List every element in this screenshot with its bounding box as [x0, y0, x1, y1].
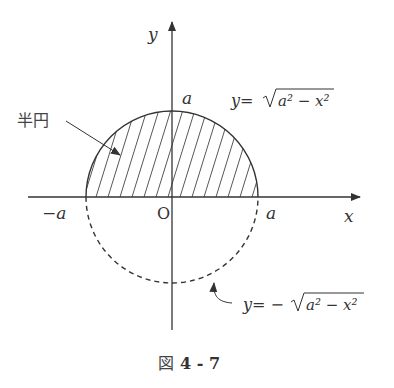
semicircle-pointer-arrow	[66, 121, 120, 155]
y-axis-label: y	[147, 24, 158, 44]
svg-text:y= −: y= −	[242, 295, 284, 314]
semicircle-label: 半円	[17, 111, 49, 130]
origin-label: O	[157, 204, 170, 223]
neg-a-label: −a	[42, 203, 66, 223]
lower-equation: y= − a² − x²	[242, 293, 364, 314]
pos-a-label: a	[266, 203, 276, 223]
svg-text:a² − x²: a² − x²	[278, 92, 330, 110]
svg-text:a² − x²: a² − x²	[306, 296, 358, 314]
svg-text:y=: y=	[230, 91, 253, 110]
svg-text:4 - 7: 4 - 7	[180, 354, 220, 373]
semicircle-diagram: y x O −a a a 半円 y= a² − x² y= − a² − x² …	[0, 0, 394, 388]
svg-text:図: 図	[158, 354, 174, 373]
figure-caption: 図 4 - 7	[158, 354, 220, 373]
top-a-label: a	[182, 88, 192, 108]
x-axis-label: x	[344, 206, 354, 226]
lower-curve-pointer-arrow	[214, 283, 232, 303]
hatch-fill	[60, 100, 282, 197]
upper-equation: y= a² − x²	[230, 89, 334, 110]
